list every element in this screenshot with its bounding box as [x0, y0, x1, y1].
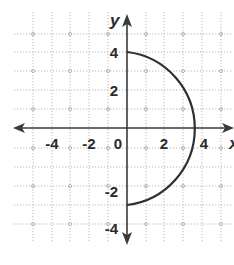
y-tick-label: 4	[110, 44, 119, 61]
x-tick-label: 2	[160, 135, 168, 152]
x-axis-label: x	[228, 134, 234, 153]
semicircle-graph: y x -4-2024 42-2-4	[0, 0, 234, 265]
x-tick-label: 0	[114, 135, 122, 152]
y-tick-label: -2	[105, 183, 118, 200]
x-tick-label: -2	[82, 135, 95, 152]
y-tick-label: 2	[110, 82, 118, 99]
y-tick-label: -4	[105, 220, 119, 237]
x-tick-label: 4	[200, 135, 209, 152]
x-tick-label: -4	[45, 135, 59, 152]
y-axis-label: y	[109, 11, 121, 30]
